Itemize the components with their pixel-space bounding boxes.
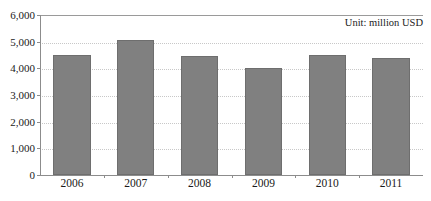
bar-slot — [309, 16, 346, 175]
bar-chart: 01,0002,0003,0004,0005,0006,000 20062007… — [0, 0, 431, 201]
bar-slot — [181, 16, 218, 175]
x-axis-tick-mark — [104, 175, 105, 178]
x-axis-tick-mark — [168, 175, 169, 178]
plot-area — [40, 15, 423, 175]
y-axis-tick-label: 4,000 — [0, 63, 35, 74]
y-axis-tick-label: 0 — [0, 170, 35, 181]
y-axis-tick-label: 3,000 — [0, 90, 35, 101]
bar-slot — [372, 16, 409, 175]
x-axis-tick-label: 2008 — [168, 178, 232, 190]
bar[interactable] — [245, 68, 282, 175]
y-axis-tick-label: 2,000 — [0, 116, 35, 127]
bar-series — [40, 16, 423, 175]
bar[interactable] — [181, 56, 218, 175]
y-axis-tick-label: 5,000 — [0, 36, 35, 47]
bar-slot — [117, 16, 154, 175]
y-axis-tick-label: 6,000 — [0, 10, 35, 21]
bar-slot — [245, 16, 282, 175]
bar-slot — [53, 16, 90, 175]
bar[interactable] — [117, 40, 154, 175]
bar[interactable] — [53, 55, 90, 175]
unit-annotation: Unit: million USD — [345, 17, 423, 28]
x-axis-tick-label: 2009 — [232, 178, 296, 190]
x-axis-tick-label: 2010 — [295, 178, 359, 190]
bar[interactable] — [372, 58, 409, 175]
x-axis-tick-mark — [359, 175, 360, 178]
bar[interactable] — [309, 55, 346, 175]
y-axis-line — [40, 15, 41, 176]
x-axis-tick-label: 2011 — [359, 178, 423, 190]
x-axis-tick-label: 2007 — [104, 178, 168, 190]
x-axis-tick-mark — [232, 175, 233, 178]
x-axis-tick-label: 2006 — [40, 178, 104, 190]
x-axis-tick-mark — [295, 175, 296, 178]
y-axis-tick-label: 1,000 — [0, 143, 35, 154]
